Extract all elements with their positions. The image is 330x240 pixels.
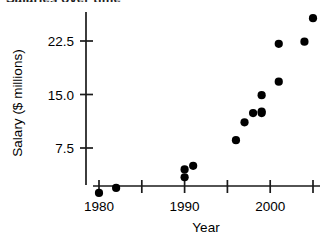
- y-axis-tick-label: 22.5: [48, 34, 74, 49]
- y-axis: 7.515.022.5: [48, 12, 93, 185]
- data-point: [181, 173, 189, 181]
- y-axis-tick-label: 15.0: [48, 88, 74, 103]
- x-axis-tick-labels: 198019902000: [84, 199, 285, 214]
- data-point: [249, 109, 257, 117]
- data-point: [275, 40, 283, 48]
- data-point: [232, 136, 240, 144]
- data-point: [189, 162, 197, 170]
- y-axis-tick-labels: 7.515.022.5: [48, 34, 74, 156]
- x-axis-title: Year: [192, 220, 220, 235]
- data-point: [258, 108, 266, 116]
- x-axis-tick-label: 1980: [84, 199, 114, 214]
- y-axis-title: Salary ($ millions): [10, 49, 25, 156]
- scatter-plot-figure: Salaries over time 7.515.022.5 198019902…: [0, 0, 330, 240]
- data-point: [275, 78, 283, 86]
- data-point-series: [95, 14, 317, 197]
- data-point: [95, 189, 103, 197]
- data-point: [300, 38, 308, 46]
- x-axis-tick-label: 2000: [255, 199, 285, 214]
- data-point: [258, 91, 266, 99]
- data-point: [309, 14, 317, 22]
- x-axis-tick-label: 1990: [170, 199, 200, 214]
- y-axis-tick-label: 7.5: [55, 141, 74, 156]
- data-point: [181, 165, 189, 173]
- plot-canvas: 7.515.022.5 198019902000 Year Salary ($ …: [0, 0, 330, 240]
- data-point: [112, 184, 120, 192]
- figure-title: Salaries over time: [6, 0, 121, 2]
- x-axis: 198019902000: [84, 180, 320, 214]
- data-point: [240, 118, 248, 126]
